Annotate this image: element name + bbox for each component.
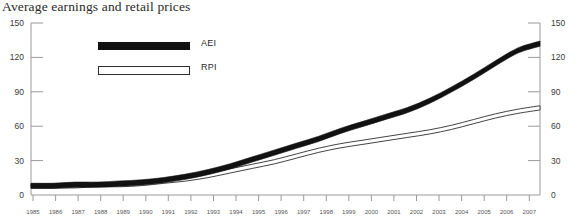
x-tick-label: 1987	[71, 209, 84, 215]
legend-label-aei: AEI	[201, 38, 216, 48]
x-tick-label: 1993	[207, 209, 220, 215]
x-tick-label: 2007	[523, 209, 536, 215]
right-axis-label-30: 30	[551, 156, 573, 166]
x-tick-label: 1994	[229, 209, 242, 215]
x-tick-label: 1985	[26, 209, 39, 215]
right-axis-label-150: 150	[551, 18, 573, 28]
x-tick-label: 1995	[252, 209, 265, 215]
x-tick-label: 1999	[342, 209, 355, 215]
x-tick-label: 2005	[478, 209, 491, 215]
left-axis-label-150: 150	[4, 18, 24, 28]
x-tick-label: 1998	[320, 209, 333, 215]
right-axis-label-90: 90	[551, 87, 573, 97]
right-axis-label-120: 120	[551, 52, 573, 62]
x-tick-label: 1996	[274, 209, 287, 215]
x-tick-label: 1991	[162, 209, 175, 215]
x-tick-label: 2002	[410, 209, 423, 215]
series-band-aei	[31, 41, 540, 188]
x-tick-label: 1997	[297, 209, 310, 215]
left-axis-label-0: 0	[4, 190, 24, 200]
legend-swatch-aei	[98, 42, 190, 50]
left-axis-label-60: 60	[4, 121, 24, 131]
x-tick-group	[33, 195, 529, 201]
x-tick-label: 1989	[117, 209, 130, 215]
x-tick-label: 2001	[387, 209, 400, 215]
right-axis-label-0: 0	[551, 190, 573, 200]
plot-area	[0, 0, 586, 219]
left-axis-label-30: 30	[4, 156, 24, 166]
x-tick-label: 1988	[94, 209, 107, 215]
left-axis-label-120: 120	[4, 52, 24, 62]
x-tick-label: 1986	[49, 209, 62, 215]
x-tick-label: 1990	[139, 209, 152, 215]
chart-container: Average earnings and retail prices 150 1…	[0, 0, 586, 219]
x-tick-label: 1992	[184, 209, 197, 215]
x-tick-label: 2003	[432, 209, 445, 215]
x-tick-label: 2004	[455, 209, 468, 215]
x-tick-label: 2006	[500, 209, 513, 215]
legend-swatch-rpi	[98, 66, 190, 75]
left-axis-label-90: 90	[4, 87, 24, 97]
x-tick-label: 2000	[365, 209, 378, 215]
legend-label-rpi: RPI	[201, 62, 217, 72]
right-axis-label-60: 60	[551, 121, 573, 131]
